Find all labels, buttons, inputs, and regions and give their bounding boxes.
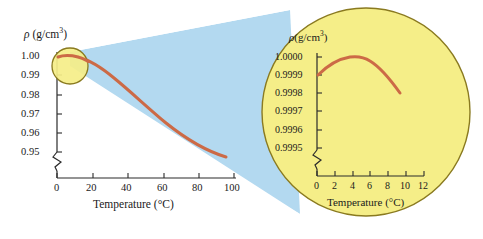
main-x-tick-label-4: 80: [192, 182, 203, 193]
main-x-tick-label-5: 100: [224, 182, 240, 193]
inset-y-tick-label-3: 0.9997: [275, 105, 303, 116]
main-y-tick-label-0: 1.00: [21, 50, 39, 61]
main-y-tick-label-5: 0.95: [21, 146, 39, 157]
inset-x-tick-label-2: 4: [350, 180, 355, 191]
inset-x-axis-title: Temperature (°C): [327, 196, 404, 208]
inset-y-axis-title-close: ): [324, 31, 328, 43]
inset-y-tick-label-0: 1.0000: [275, 51, 303, 62]
main-y-tick-label-3: 0.97: [21, 108, 39, 119]
inset-y-tick-label-2: 0.9998: [275, 87, 303, 98]
main-x-tick-label-3: 60: [157, 182, 168, 193]
inset-y-tick-label-1: 0.9999: [275, 69, 303, 80]
main-x-tick-label-0: 0: [54, 182, 59, 193]
inset-y-tick-label-5: 0.9995: [275, 142, 303, 153]
main-y-tick-label-2: 0.98: [21, 89, 39, 100]
magnified-region-highlight[interactable]: [52, 48, 88, 84]
inset-y-axis-title: ρ(g/cm3): [289, 29, 327, 43]
inset-x-tick-label-5: 10: [400, 180, 410, 191]
inset-x-tick-label-3: 6: [367, 180, 372, 191]
main-y-axis-break-icon: [53, 152, 61, 171]
main-x-tick-label-2: 40: [121, 182, 132, 193]
main-x-axis-title: Temperature (°C): [93, 198, 174, 210]
inset-x-tick-label-4: 8: [385, 180, 390, 191]
main-y-tick-label-1: 0.99: [21, 69, 39, 80]
main-x-tick-label-1: 20: [86, 182, 97, 193]
main-y-axis-title-close: ): [63, 28, 67, 40]
main-y-tick-label-4: 0.96: [21, 127, 39, 138]
main-y-axis-title: ρ (g/cm3): [24, 26, 67, 40]
inset-x-tick-label-1: 2: [332, 180, 337, 191]
inset-y-tick-label-4: 0.9996: [275, 124, 303, 135]
inset-y-axis-title-units: (g/cm: [294, 31, 320, 43]
inset-x-tick-label-0: 0: [314, 180, 319, 191]
figure-canvas: [0, 0, 483, 239]
density-vs-temperature-figure: ρ (g/cm3) 1.00 0.99 0.98 0.97 0.96 0.95 …: [0, 0, 483, 239]
inset-x-tick-label-6: 12: [418, 180, 428, 191]
main-y-axis-title-units: (g/cm: [32, 28, 59, 40]
